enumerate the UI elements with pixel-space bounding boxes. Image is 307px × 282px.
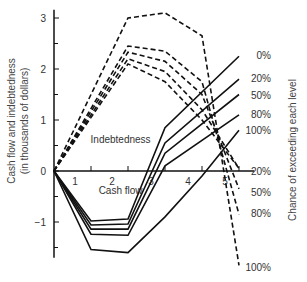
y-axis-title-line2: (in thousands of dollars) [19, 68, 30, 175]
indebtedness-percent-label: 50% [251, 187, 271, 198]
indebtedness-percent-label: 80% [251, 208, 271, 219]
x-tick-label: 4 [185, 176, 191, 187]
y-tick-label: 3 [40, 13, 46, 24]
cash-flow-label: Cash flow [99, 185, 144, 196]
right-axis-title: Chance of exceeding each level [287, 79, 298, 221]
y-tick-label: 1 [40, 115, 46, 126]
cash-flow-percent-label: 50% [251, 90, 271, 101]
labels-group: IndebtednessCash flow0%20%50%80%100%20%5… [91, 50, 272, 273]
y-tick-label: 2 [40, 64, 46, 75]
indebtedness-line-50pct [54, 52, 239, 189]
cash-flow-percent-label: 0% [257, 50, 272, 61]
indebtedness-percent-label: 100% [245, 262, 271, 273]
x-tick-label: 1 [72, 176, 78, 187]
y-tick-label: −1 [35, 217, 47, 228]
cash-flow-percent-label: 100% [245, 125, 271, 136]
chart: −1012312345 IndebtednessCash flow0%20%50… [0, 0, 307, 282]
y-tick-label: 0 [40, 166, 46, 177]
indebtedness-percent-label: 20% [251, 166, 271, 177]
cash-flow-percent-label: 20% [251, 73, 271, 84]
cash-flow-percent-label: 80% [251, 109, 271, 120]
y-axis-title-line1: Cash flow and indebtedness [6, 58, 17, 184]
indebtedness-label: Indebtedness [91, 134, 151, 145]
cash-flow-line-20pct [54, 79, 239, 225]
